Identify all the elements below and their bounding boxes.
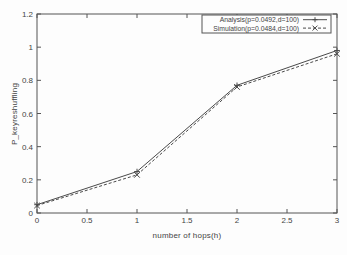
y-tick-label: 1.2 [22, 10, 34, 19]
x-tick-label: 2.5 [281, 216, 293, 225]
legend-label-analysis: Analysis(p=0.0492,d=100) [220, 16, 299, 24]
y-tick-label: 0.2 [22, 176, 34, 185]
x-tick-label: 0.5 [81, 216, 93, 225]
legend-label-simulation: Simulation(p=0.0484,d=100) [213, 25, 299, 33]
x-axis-label: number of hops(h) [37, 231, 337, 240]
y-tick-label: 0.4 [22, 143, 34, 152]
chart-canvas: 00.511.522.5300.20.40.60.811.2Analysis(p… [0, 0, 347, 255]
y-tick-label: 0.6 [22, 110, 34, 119]
x-tick-label: 0 [35, 216, 40, 225]
y-tick-label: 0.8 [22, 76, 34, 85]
x-tick-label: 1 [135, 216, 140, 225]
y-tick-label: 1 [29, 43, 34, 52]
series-line-analysis [37, 50, 337, 204]
plot-border [37, 14, 337, 213]
y-tick-label: 0 [29, 209, 34, 218]
y-axis-label: P_keyreshuffling [10, 83, 19, 145]
series-line-simulation [37, 54, 337, 206]
figure-key-reshuffling-chart: 00.511.522.5300.20.40.60.811.2Analysis(p… [0, 0, 347, 255]
x-tick-label: 3 [335, 216, 340, 225]
x-tick-label: 1.5 [181, 216, 193, 225]
x-tick-label: 2 [235, 216, 240, 225]
